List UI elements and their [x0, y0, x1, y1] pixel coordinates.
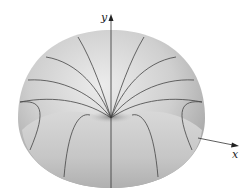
- y-axis-arrow-icon: [109, 14, 114, 21]
- x-axis-arrow-icon: [231, 143, 239, 148]
- x-axis-label: x: [232, 148, 239, 161]
- y-axis-label: y: [100, 11, 108, 24]
- surface-figure: y x: [0, 0, 252, 196]
- x-axis: [198, 138, 233, 145]
